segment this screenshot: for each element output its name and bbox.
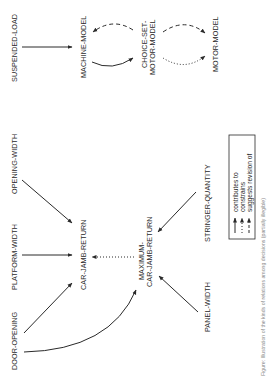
node-motor-model: MOTOR-MODEL <box>211 16 220 72</box>
edge-motor-to-choiceset <box>163 56 205 65</box>
node-opening-width: OPENING-WIDTH <box>10 134 19 194</box>
diagram-canvas: SUSPENDED-LOAD MACHINE-MODEL CHOICE-SET-… <box>0 0 269 379</box>
node-machine-model: MACHINE-MODEL <box>79 16 88 78</box>
node-suspended-load: SUSPENDED-LOAD <box>10 14 19 82</box>
node-door-opening: DOOR-OPENING <box>10 311 19 370</box>
edge-door-to-carjamb <box>24 283 72 333</box>
legend-constrains: constrains <box>239 181 246 212</box>
figure-caption: Figure: Illustration of the kinds of rel… <box>260 198 266 376</box>
edge-stringer-to-maximum <box>158 192 196 232</box>
node-choice-set-line2: MOTOR-MODEL <box>148 19 157 75</box>
edge-door-to-maximum <box>24 290 136 352</box>
node-panel-width: PANEL-WIDTH <box>203 282 212 332</box>
edge-choiceset-to-motor <box>163 25 205 33</box>
legend-suggests: suggests revision of <box>246 154 254 212</box>
node-car-jamb-return: CAR-JAMB-RETURN <box>79 219 88 290</box>
edge-panel-to-maximum <box>159 276 198 312</box>
edge-machine-to-choiceset <box>92 58 133 66</box>
legend: contributes to constrains suggests revis… <box>229 135 255 239</box>
legend-contributes: contributes to <box>232 172 239 212</box>
node-max-line2: CAR-JAMB-RETURN <box>145 216 154 287</box>
node-platform-width: PLATFORM-WIDTH <box>10 224 19 290</box>
edge-choiceset-to-machine <box>93 24 133 32</box>
edge-opening-to-carjamb <box>22 180 72 223</box>
node-stringer-quantity: STRINGER-QUANTITY <box>203 164 212 242</box>
